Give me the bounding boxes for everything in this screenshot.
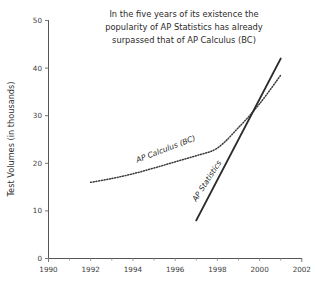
y-tick-label-30: 30: [33, 111, 43, 120]
x-tick-label-1992: 1992: [82, 265, 100, 274]
x-tick-label-2002: 2002: [293, 265, 311, 274]
chart-title: In the five years of its existence the p…: [105, 9, 263, 45]
x-tick-label-1998: 1998: [208, 265, 227, 274]
chart-title-line-3: surpassed that of AP Calculus (BC): [112, 35, 256, 45]
series-line-ap-statistics: [196, 59, 280, 221]
chart-title-line-2: popularity of AP Statistics has already: [105, 22, 263, 32]
y-tick-label-40: 40: [33, 64, 43, 73]
series-label-ap-calculus-bc: AP Calculus (BC): [134, 134, 197, 165]
x-tick-label-1996: 1996: [166, 265, 185, 274]
y-tick-label-50: 50: [33, 16, 43, 25]
y-axis-ticks: [45, 21, 49, 259]
x-tick-label-2000: 2000: [250, 265, 269, 274]
x-axis-ticks: [49, 259, 302, 263]
x-axis-tick-labels: 1990 1992 1994 1996 1998 2000 2002: [39, 265, 311, 274]
x-tick-label-1994: 1994: [124, 265, 143, 274]
series-line-ap-calculus-bc: [91, 75, 281, 182]
y-axis-tick-labels: 0 10 20 30 40 50: [33, 16, 43, 263]
y-axis-title: Test Volumes (in thousands): [6, 81, 16, 197]
y-tick-label-20: 20: [33, 159, 43, 168]
chart-title-line-1: In the five years of its existence the: [109, 9, 258, 19]
y-tick-label-10: 10: [33, 206, 43, 215]
chart-container: In the five years of its existence the p…: [0, 0, 315, 286]
series-label-ap-statistics: AP Statistics: [190, 159, 224, 204]
x-tick-label-1990: 1990: [39, 265, 58, 274]
chart-plot-area: In the five years of its existence the p…: [0, 0, 315, 286]
y-tick-label-0: 0: [37, 254, 42, 263]
